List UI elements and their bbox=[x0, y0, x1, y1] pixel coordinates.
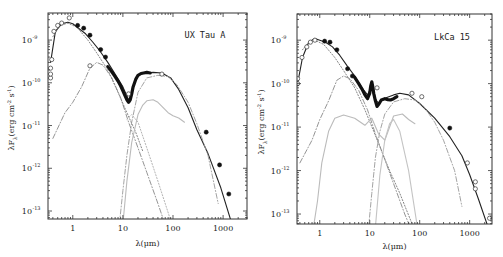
y-tick-label: 10 bbox=[271, 210, 281, 219]
series-line-total-model bbox=[51, 22, 232, 224]
x-tick-label: 100 bbox=[165, 224, 180, 233]
y-tick-base: 10 bbox=[22, 207, 32, 216]
x-axis-label: λ(μm) bbox=[135, 239, 159, 248]
data-point-open bbox=[308, 40, 312, 44]
data-point-filled bbox=[227, 192, 231, 196]
data-point-filled bbox=[103, 55, 107, 59]
sed-figure: 110100100010-910-1010-1110-1210-13UX Tau… bbox=[0, 0, 503, 257]
x-tick-label: 1000 bbox=[459, 229, 479, 238]
series-line-inner-disk-wall-accretion bbox=[53, 62, 171, 241]
y-tick-label: 10 bbox=[22, 207, 32, 216]
data-point-open bbox=[50, 57, 54, 61]
series-line-dotted-optically-thin bbox=[127, 115, 171, 221]
data-point-filled bbox=[345, 67, 349, 71]
y-tick-label: 10 bbox=[22, 122, 32, 131]
data-point-filled bbox=[328, 40, 332, 44]
x-tick-label: 1 bbox=[70, 224, 75, 233]
y-tick-base: 10 bbox=[271, 210, 281, 219]
x-tick-label: 10 bbox=[365, 229, 375, 238]
y-tick-label: 10 bbox=[271, 167, 281, 176]
data-point-open bbox=[296, 77, 300, 81]
data-point-filled bbox=[99, 47, 103, 51]
y-tick-exponent: -11 bbox=[33, 120, 41, 126]
y-axis-label-part: λF bbox=[257, 143, 266, 154]
data-point-filled bbox=[88, 33, 92, 37]
y-tick-label: 10 bbox=[271, 36, 281, 45]
y-tick-exponent: -11 bbox=[282, 121, 290, 127]
y-tick-label: 10 bbox=[271, 80, 281, 89]
plot-frame bbox=[48, 13, 247, 219]
y-tick-base: 10 bbox=[271, 80, 281, 89]
data-point-open bbox=[88, 64, 92, 68]
series-line-outer-disk-wall bbox=[369, 99, 462, 227]
series-group bbox=[296, 38, 492, 231]
data-point-open bbox=[52, 29, 56, 33]
data-point-open bbox=[160, 72, 164, 76]
y-axis-label-part: ) bbox=[7, 85, 16, 88]
y-tick-exponent: -12 bbox=[282, 165, 290, 171]
y-tick-base: 10 bbox=[271, 167, 281, 176]
y-tick-exponent: -10 bbox=[282, 78, 290, 84]
y-tick-base: 10 bbox=[22, 122, 32, 131]
data-point-open bbox=[56, 23, 60, 27]
x-tick-label: 10 bbox=[118, 224, 128, 233]
data-point-open bbox=[473, 180, 477, 184]
data-point-filled bbox=[76, 23, 80, 27]
y-axis-label-part: (erg cm bbox=[257, 109, 266, 141]
data-point-open bbox=[420, 95, 424, 99]
y-tick-base: 10 bbox=[271, 36, 281, 45]
y-tick-exponent: -12 bbox=[33, 162, 41, 168]
y-tick-base: 10 bbox=[22, 164, 32, 173]
y-tick-base: 10 bbox=[22, 36, 32, 45]
y-axis-label-part: s bbox=[257, 97, 266, 104]
data-point-filled bbox=[204, 130, 208, 134]
y-axis-label-part: λF bbox=[7, 139, 16, 150]
y-axis-label: λFλ(erg cm-2 s-1) bbox=[6, 85, 18, 150]
panel-lkca-15: 110100100010-910-1010-1110-1210-13LkCa 1… bbox=[256, 14, 492, 251]
series-line-outer-disk-wall bbox=[119, 75, 218, 224]
data-point-open bbox=[375, 86, 379, 90]
x-tick-label: 1000 bbox=[213, 224, 233, 233]
data-point-filled bbox=[323, 39, 327, 43]
panel-ux-tau-a: 110100100010-910-1010-1110-1210-13UX Tau… bbox=[6, 13, 247, 248]
data-point-open bbox=[410, 91, 414, 95]
y-axis-label: λFλ(erg cm-2 s-1) bbox=[256, 89, 268, 154]
series-line-stellar-photosphere bbox=[53, 23, 143, 151]
data-point-open bbox=[127, 92, 131, 96]
data-point-open bbox=[67, 16, 71, 20]
data-point-filled bbox=[82, 26, 86, 30]
y-tick-base: 10 bbox=[22, 79, 32, 88]
data-point-filled bbox=[335, 48, 339, 52]
x-tick-label: 100 bbox=[412, 229, 427, 238]
y-tick-label: 10 bbox=[271, 123, 281, 132]
series-line-stellar-photosphere bbox=[303, 40, 413, 224]
y-axis-label-part: ) bbox=[257, 89, 266, 92]
panel-title: UX Tau A bbox=[185, 30, 226, 40]
y-tick-exponent: -13 bbox=[282, 208, 290, 214]
series-line-optically-thin-dust-2 bbox=[375, 120, 417, 228]
data-point-filled bbox=[448, 126, 452, 130]
data-point-open bbox=[48, 72, 52, 76]
series-line-optically-thin-dust bbox=[123, 100, 185, 224]
data-point-open bbox=[465, 161, 469, 165]
series-line-irs-spectrum bbox=[355, 77, 397, 106]
y-tick-label: 10 bbox=[22, 36, 32, 45]
y-tick-exponent: -9 bbox=[282, 34, 287, 40]
y-tick-exponent: -9 bbox=[33, 34, 38, 40]
x-tick-label: 1 bbox=[317, 229, 322, 238]
y-tick-base: 10 bbox=[271, 123, 281, 132]
panel-title: LkCa 15 bbox=[434, 32, 470, 42]
data-point-filled bbox=[217, 163, 221, 167]
data-point-open bbox=[313, 38, 317, 42]
data-point-open bbox=[300, 55, 304, 59]
y-tick-label: 10 bbox=[22, 164, 32, 173]
data-point-open bbox=[60, 21, 64, 25]
plot-frame bbox=[297, 14, 492, 224]
data-point-open bbox=[473, 187, 477, 191]
y-axis-label-part: s bbox=[7, 93, 16, 100]
y-tick-exponent: -10 bbox=[33, 77, 41, 83]
y-tick-exponent: -13 bbox=[33, 205, 41, 211]
y-axis-label-part: (erg cm bbox=[7, 105, 16, 137]
y-tick-label: 10 bbox=[22, 79, 32, 88]
series-group bbox=[48, 16, 231, 241]
